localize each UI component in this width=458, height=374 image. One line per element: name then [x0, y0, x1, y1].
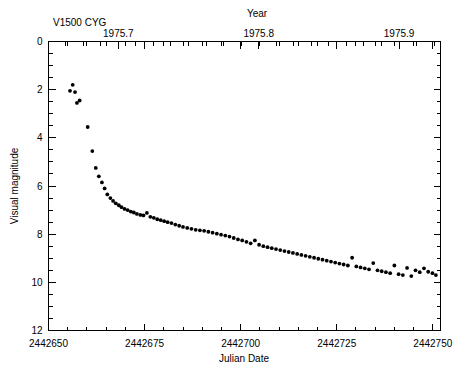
data-point: [274, 247, 278, 251]
data-point: [94, 166, 98, 170]
x-tick-label: 2442700: [221, 338, 260, 349]
data-point: [181, 225, 185, 229]
top-axis-title: Year: [247, 8, 268, 19]
y-axis-ticks: [49, 42, 441, 331]
data-point: [405, 266, 409, 270]
data-points: [68, 83, 438, 278]
data-point: [194, 228, 198, 232]
data-point: [166, 220, 170, 224]
data-point: [245, 240, 249, 244]
data-point: [434, 273, 438, 277]
data-point: [170, 221, 174, 225]
data-point: [73, 90, 77, 94]
y-tick-label: 6: [37, 181, 43, 192]
x-tick-label: 2442675: [125, 338, 164, 349]
data-point: [228, 235, 232, 239]
top-tick-label: 1975.7: [103, 28, 134, 39]
data-point: [287, 250, 291, 254]
data-point: [71, 83, 75, 87]
data-point: [100, 180, 104, 184]
data-point: [159, 218, 163, 222]
x-tick-label: 2442650: [29, 338, 68, 349]
data-point: [261, 244, 265, 248]
data-point: [135, 212, 139, 216]
data-point: [359, 266, 363, 270]
data-point: [299, 253, 303, 257]
data-point: [376, 268, 380, 272]
y-tick-label: 8: [37, 229, 43, 240]
data-point: [253, 239, 257, 243]
data-point: [148, 215, 152, 219]
data-point: [431, 271, 435, 275]
data-point: [155, 217, 159, 221]
data-point: [257, 243, 261, 247]
data-point: [90, 149, 94, 153]
data-point: [312, 256, 316, 260]
data-point: [97, 174, 101, 178]
data-point: [338, 262, 342, 266]
data-point: [219, 233, 223, 237]
data-point: [401, 273, 405, 277]
data-point: [211, 231, 215, 235]
data-point: [145, 211, 149, 215]
data-point: [414, 268, 418, 272]
data-point: [86, 125, 90, 129]
data-point: [142, 213, 146, 217]
x-tick-label: 2442750: [413, 338, 452, 349]
data-point: [215, 232, 219, 236]
y-tick-label: 4: [37, 132, 43, 143]
data-point: [177, 224, 181, 228]
data-point: [342, 263, 346, 267]
data-point: [333, 261, 337, 265]
x-axis-tick-labels: 24426502442675244270024427252442750: [29, 338, 453, 349]
light-curve-figure: 24426502442675244270024427252442750 0246…: [0, 0, 458, 374]
plot-canvas: 24426502442675244270024427252442750 0246…: [0, 0, 458, 374]
data-point: [316, 257, 320, 261]
data-point: [236, 238, 240, 242]
x-axis-ticks: [49, 42, 433, 331]
data-point: [367, 267, 371, 271]
plot-title: V1500 CYG: [53, 17, 107, 28]
data-point: [354, 265, 358, 269]
data-point: [350, 256, 354, 260]
data-point: [304, 254, 308, 258]
data-point: [249, 241, 253, 245]
data-point: [283, 249, 287, 253]
y-axis-title: Visual magnitude: [9, 147, 20, 224]
data-point: [68, 89, 72, 93]
data-point: [329, 260, 333, 264]
data-point: [173, 223, 177, 227]
data-point: [103, 187, 107, 191]
data-point: [198, 228, 202, 232]
top-axis-tick-labels: 1975.71975.81975.9: [103, 28, 415, 39]
data-point: [266, 245, 270, 249]
data-point: [371, 261, 375, 265]
data-point: [363, 266, 367, 270]
data-point: [409, 274, 413, 278]
data-point: [325, 259, 329, 263]
top-tick-label: 1975.8: [243, 28, 274, 39]
data-point: [380, 269, 384, 273]
data-point: [418, 270, 422, 274]
data-point: [202, 229, 206, 233]
data-point: [190, 227, 194, 231]
data-point: [426, 270, 430, 274]
data-point: [384, 270, 388, 274]
y-tick-label: 10: [31, 277, 43, 288]
data-point: [105, 193, 109, 197]
data-point: [206, 230, 210, 234]
data-point: [152, 216, 156, 220]
y-axis-tick-labels: 024681012: [31, 36, 43, 336]
data-point: [346, 264, 350, 268]
data-point: [278, 248, 282, 252]
data-point: [308, 255, 312, 259]
data-point: [392, 264, 396, 268]
data-point: [388, 271, 392, 275]
plot-frame: [49, 42, 441, 331]
data-point: [295, 252, 299, 256]
top-axis-ticks: [66, 42, 434, 49]
data-point: [321, 258, 325, 262]
y-tick-label: 12: [31, 325, 43, 336]
x-axis-title: Julian Date: [219, 353, 269, 364]
data-point: [185, 226, 189, 230]
